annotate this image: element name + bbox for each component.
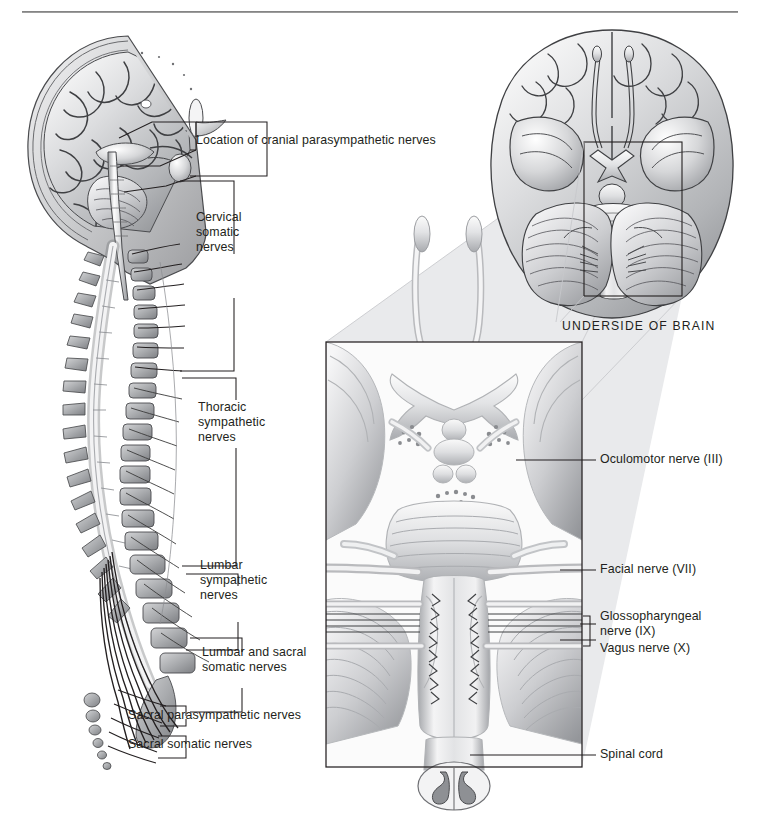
sagittal-head-panel — [28, 36, 226, 300]
label-vagus-nerve: Vagus nerve (X) — [600, 641, 690, 656]
label-lumbar-sympathetic-line1: Lumbar — [200, 558, 243, 573]
label-thoracic-sympathetic-line3: nerves — [198, 430, 236, 445]
label-cranial-parasympathetic: Location of cranial parasympathetic nerv… — [196, 133, 436, 148]
label-cervical-somatic-line1: Cervical — [196, 210, 242, 225]
label-lumbar-sacral-somatic-line2: somatic nerves — [202, 660, 287, 675]
label-oculomotor-nerve: Oculomotor nerve (III) — [600, 452, 723, 467]
label-cervical-somatic-line2: somatic — [196, 225, 239, 240]
inferior-brain-panel — [491, 30, 733, 322]
label-spinal-cord: Spinal cord — [600, 747, 663, 762]
label-underside-of-brain: UNDERSIDE OF BRAIN — [562, 319, 715, 334]
illustration-page: Location of cranial parasympathetic nerv… — [0, 0, 758, 837]
label-thoracic-sympathetic-line1: Thoracic — [198, 400, 246, 415]
label-glossopharyngeal-line2: nerve (IX) — [600, 624, 655, 639]
label-sacral-parasympathetic: Sacral parasympathetic nerves — [128, 708, 301, 723]
label-sacral-somatic: Sacral somatic nerves — [128, 737, 252, 752]
label-lumbar-sympathetic-line2: sympathetic — [200, 573, 267, 588]
thoracic-vertebrae — [120, 383, 158, 550]
label-facial-nerve: Facial nerve (VII) — [600, 562, 696, 577]
label-cervical-somatic-line3: nerves — [196, 240, 234, 255]
label-thoracic-sympathetic-line2: sympathetic — [198, 415, 265, 430]
label-lumbar-sacral-somatic-line1: Lumbar and sacral — [202, 645, 306, 660]
spinal-column-panel — [63, 244, 209, 770]
anatomy-artwork — [0, 0, 758, 837]
label-glossopharyngeal-line1: Glossopharyngeal — [600, 609, 701, 624]
coccyx — [84, 693, 111, 770]
label-lumbar-sympathetic-line3: nerves — [200, 588, 238, 603]
